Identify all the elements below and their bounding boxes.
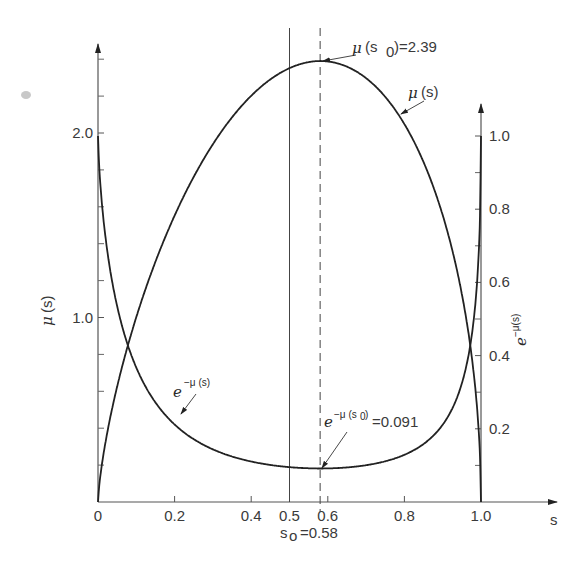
right-y-tick-label: 0.8 bbox=[489, 200, 510, 217]
mu-curve-annotation-mu: μ bbox=[408, 84, 418, 102]
exp-curve-annotation: e −μ (s) bbox=[173, 377, 210, 401]
right-axis-label-e: e bbox=[512, 337, 530, 346]
x-tick-label: 0.5 bbox=[279, 507, 300, 524]
min-annotation-sup: −μ (s bbox=[334, 409, 357, 420]
chart-canvas: 00.20.40.50.60.81.01.02.00.20.40.60.81.0… bbox=[0, 0, 582, 570]
right-y-tick-label: 0.4 bbox=[489, 347, 510, 364]
left-y-tick-label: 2.0 bbox=[72, 124, 93, 141]
peak-annotation-mu: μ bbox=[352, 39, 362, 57]
min-annotation: e −μ (s 0 ) =0.091 bbox=[324, 409, 418, 431]
s0-label: s o =0.58 bbox=[280, 524, 338, 544]
left-axis-label-mu: μ bbox=[38, 316, 56, 326]
right-y-tick-label: 1.0 bbox=[489, 127, 510, 144]
peak-annotation: μ (s 0 )=2.39 bbox=[352, 38, 437, 60]
mu-curve-annotation-arrow bbox=[401, 101, 424, 114]
left-y-tick-label: 1.0 bbox=[72, 309, 93, 326]
right-axis-label-sup: −μ(s) bbox=[510, 314, 521, 337]
s0-label-sub: o bbox=[289, 527, 297, 544]
min-annotation-arrow bbox=[322, 432, 347, 468]
exp-curve-annotation-sup: −μ (s) bbox=[184, 377, 210, 388]
s0-label-value: =0.58 bbox=[300, 524, 338, 541]
mu-curve-annotation: μ (s) bbox=[408, 83, 439, 102]
x-tick-label: 1.0 bbox=[471, 507, 492, 524]
vertical-reference-lines bbox=[290, 28, 321, 512]
right-y-tick-label: 0.2 bbox=[489, 420, 510, 437]
min-annotation-e: e bbox=[324, 413, 333, 431]
x-tick-label: 0.2 bbox=[164, 507, 185, 524]
min-annotation-close: ) bbox=[365, 409, 368, 420]
axis-tick-labels: 00.20.40.50.60.81.01.02.00.20.40.60.81.0 bbox=[72, 124, 510, 524]
min-annotation-value: =0.091 bbox=[372, 413, 418, 430]
s0-label-s: s bbox=[280, 524, 288, 541]
left-axis-label-arg: (s) bbox=[38, 296, 55, 314]
peak-annotation-arg: (s bbox=[365, 38, 378, 55]
exp-curve-annotation-arrow bbox=[181, 394, 196, 414]
x-axis-label: s bbox=[550, 511, 558, 528]
right-axis-label: e −μ(s) bbox=[510, 314, 530, 346]
left-axis-label: μ (s) bbox=[38, 296, 56, 327]
x-tick-label: 0 bbox=[94, 507, 102, 524]
x-tick-label: 0.8 bbox=[394, 507, 415, 524]
smudge-mark bbox=[21, 91, 31, 99]
mu-curve-annotation-arg: (s) bbox=[421, 83, 439, 100]
right-y-tick-label: 0.6 bbox=[489, 273, 510, 290]
peak-annotation-value: )=2.39 bbox=[394, 38, 437, 55]
x-tick-label: 0.4 bbox=[241, 507, 262, 524]
exp-curve-annotation-e: e bbox=[173, 383, 182, 401]
